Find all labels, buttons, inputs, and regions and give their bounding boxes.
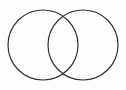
venn-diagram-canvas [0,0,126,90]
venn-diagram-figure [0,0,126,90]
diagram-background [0,0,126,90]
